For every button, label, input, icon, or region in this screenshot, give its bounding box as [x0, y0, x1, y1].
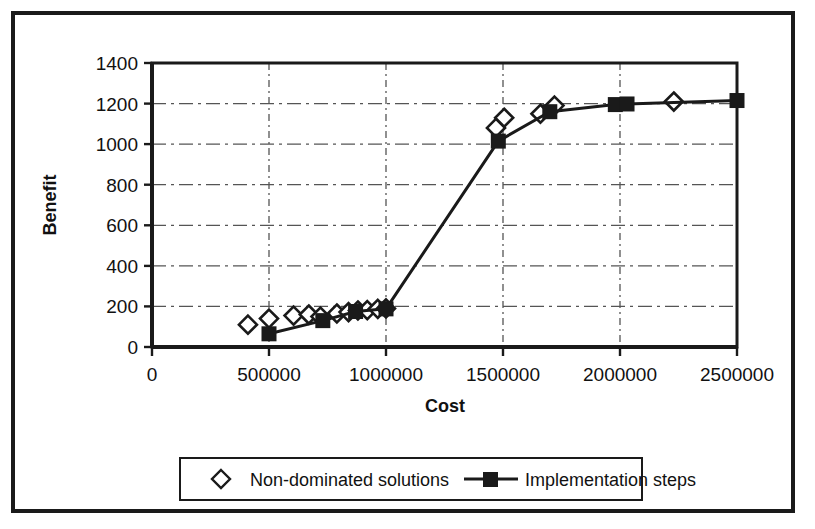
legend-label-non-dominated-solutions: Non-dominated solutions	[250, 470, 449, 490]
x-tick-label: 2500000	[700, 364, 774, 385]
x-tick-label: 1000000	[349, 364, 423, 385]
x-axis-tick-labels: 0 500000 1000000 1500000 2000000 2500000	[147, 364, 774, 385]
y-tick-label: 1000	[96, 134, 138, 155]
data-point-square	[491, 134, 506, 149]
y-tick-label: 200	[106, 296, 138, 317]
series-non-dominated-solutions	[239, 93, 683, 334]
horizontal-gridlines	[152, 104, 737, 307]
data-point-diamond	[239, 316, 257, 334]
x-axis-title: Cost	[425, 396, 465, 416]
y-tick-label: 1400	[96, 53, 138, 74]
y-axis-title: Benefit	[40, 174, 60, 235]
vertical-gridlines	[269, 63, 620, 347]
chart-figure: 1400 1200 1000 800 600 400 200 0 0 50000…	[0, 0, 815, 529]
x-tick-label: 0	[147, 364, 158, 385]
y-tick-label: 0	[127, 337, 138, 358]
x-tick-label: 500000	[237, 364, 300, 385]
data-point-square	[348, 304, 363, 319]
y-tick-label: 600	[106, 215, 138, 236]
x-tick-label: 2000000	[583, 364, 657, 385]
y-axis-tick-labels: 1400 1200 1000 800 600 400 200 0	[96, 53, 138, 358]
legend-label-implementation-steps: Implementation steps	[525, 470, 696, 490]
y-tick-label: 400	[106, 256, 138, 277]
data-point-square	[542, 104, 557, 119]
y-tick-label: 1200	[96, 94, 138, 115]
data-point-square	[730, 93, 745, 108]
data-point-square	[262, 326, 277, 341]
benefit-vs-cost-chart: 1400 1200 1000 800 600 400 200 0 0 50000…	[0, 0, 815, 529]
legend: Non-dominated solutions Implementation s…	[180, 458, 696, 500]
data-point-diamond	[260, 310, 278, 328]
plot-data-layer	[239, 93, 745, 342]
x-tick-label: 1500000	[466, 364, 540, 385]
plot-area-border	[152, 63, 737, 347]
data-point-square	[620, 96, 635, 111]
y-tick-label: 800	[106, 175, 138, 196]
data-point-square	[379, 301, 394, 316]
legend-marker-filled-square	[483, 472, 498, 487]
data-point-square	[315, 313, 330, 328]
